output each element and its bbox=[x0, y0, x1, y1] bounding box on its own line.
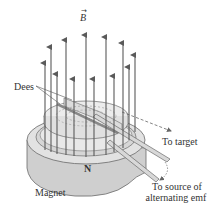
to-target-label: To target bbox=[162, 136, 198, 147]
north-pole-label: N bbox=[84, 163, 91, 174]
dees-label: Dees bbox=[14, 81, 34, 92]
magnet-label: Magnet bbox=[35, 187, 66, 198]
emf-source-label-line1: To source of bbox=[143, 181, 211, 192]
magnetic-field-label: B bbox=[80, 12, 86, 23]
cyclotron-diagram bbox=[0, 0, 211, 210]
emf-source-label-line2: alternating emf bbox=[140, 192, 211, 203]
